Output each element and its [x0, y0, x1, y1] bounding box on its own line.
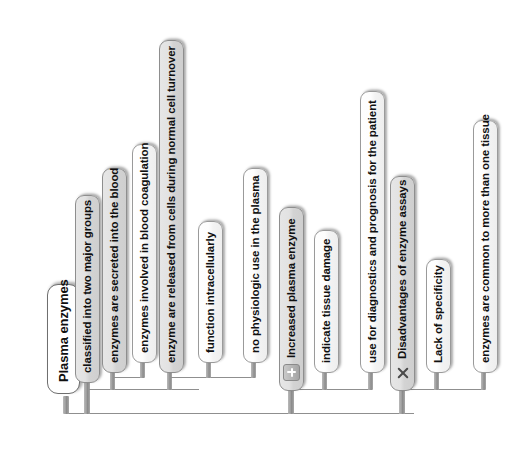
connector-stem-root [63, 396, 69, 414]
node-label: enzymes are common to more than one tiss… [480, 114, 492, 363]
node-label: enzyme are released from cells during no… [166, 46, 178, 363]
connector-stem-n5 [206, 362, 211, 378]
node-label: Increased plasma enzyme [286, 218, 298, 358]
connector-stem-n7 [288, 390, 294, 414]
node-label: indicate tissue damage [321, 239, 333, 363]
connector-bar-n1 [89, 389, 199, 390]
mindmap-canvas: Plasma enzymes classified into two major… [0, 0, 514, 461]
node-label: classified into two major groups [82, 200, 94, 373]
node-classified-two-groups[interactable]: classified into two major groups [75, 195, 100, 383]
node-use-for-diagnostics[interactable]: use for diagnostics and prognosis for th… [360, 91, 385, 373]
connector-bar-n4 [171, 377, 255, 378]
node-label: enzymes involved in blood coagulation [139, 143, 151, 353]
connector-stem-n3 [140, 362, 145, 378]
node-label: Disadvantages of enzyme assays [397, 180, 409, 359]
plus-badge-icon [283, 364, 300, 381]
node-increased-plasma-enzyme[interactable]: Increased plasma enzyme [279, 207, 304, 391]
connector-stem-n12 [481, 372, 486, 390]
cross-icon [395, 365, 411, 381]
node-indicate-tissue-damage[interactable]: indicate tissue damage [314, 230, 339, 373]
connector-stem-n2 [110, 372, 115, 390]
node-root-label: Plasma enzymes [57, 279, 70, 382]
node-blood-coagulation[interactable]: enzymes involved in blood coagulation [132, 144, 157, 363]
node-no-physiologic-use[interactable]: no physiologic use in the plasma [243, 168, 268, 363]
connector-root-trunk [68, 413, 414, 414]
connector-stem-n8 [322, 372, 327, 390]
node-label: Lack of specificity [433, 265, 445, 363]
connector-bar-n10 [403, 389, 485, 390]
node-label: use for diagnostics and prognosis for th… [367, 100, 379, 363]
connector-stem-n10 [399, 390, 405, 414]
node-lack-of-specificity[interactable]: Lack of specificity [426, 259, 451, 373]
connector-stem-n11 [434, 372, 439, 390]
connector-bar-n7 [292, 389, 372, 390]
connector-stem-n9 [368, 372, 373, 390]
node-label: no physiologic use in the plasma [250, 175, 262, 353]
node-released-from-cells[interactable]: enzyme are released from cells during no… [159, 40, 184, 373]
node-label: function intracellularly [205, 232, 217, 353]
node-common-to-more-tissue[interactable]: enzymes are common to more than one tiss… [473, 120, 498, 373]
node-function-intracellularly[interactable]: function intracellularly [198, 221, 223, 363]
connector-stem-n1 [84, 382, 90, 414]
node-secreted-into-blood[interactable]: enzymes are secreted into the blood [102, 168, 127, 373]
node-label: enzymes are secreted into the blood [109, 168, 121, 363]
connector-stem-n4 [167, 372, 172, 390]
node-disadvantages-enzyme-assays[interactable]: Disadvantages of enzyme assays [390, 176, 415, 391]
connector-stem-n6 [251, 362, 256, 378]
